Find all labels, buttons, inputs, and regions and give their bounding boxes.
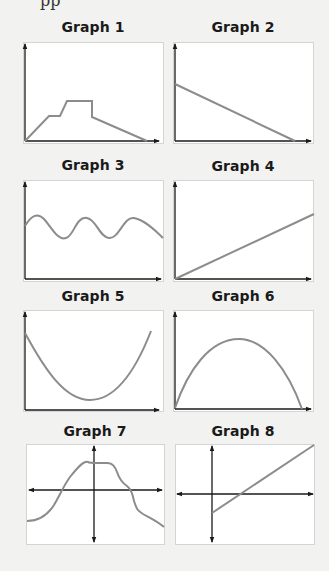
graph-4-curve <box>175 214 314 279</box>
graph-7-curve <box>27 462 164 527</box>
graph-8-plot <box>177 445 314 542</box>
graph-5-curve <box>25 331 151 400</box>
graph-1-plot <box>25 44 159 141</box>
graph-5-plot <box>25 312 159 410</box>
graph-8-curve <box>212 445 314 513</box>
graphs-canvas <box>0 0 329 571</box>
graph-2-curve <box>175 84 295 141</box>
graph-3-plot <box>25 182 163 279</box>
graph-7-plot <box>27 446 164 542</box>
graph-2-plot <box>175 44 311 141</box>
graph-1-curve <box>25 101 147 141</box>
graph-6-plot <box>175 312 311 409</box>
graph-6-curve <box>175 339 302 409</box>
graph-3-curve <box>25 215 163 238</box>
graph-4-plot <box>175 182 314 279</box>
